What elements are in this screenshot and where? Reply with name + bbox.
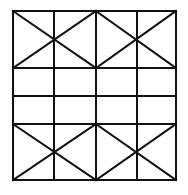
grid-lines <box>13 11 176 180</box>
grid-diagram <box>0 0 188 195</box>
